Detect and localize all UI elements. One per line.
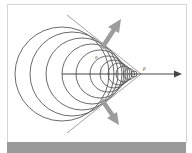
- emission-arrow-upper: [102, 19, 121, 48]
- emission-arrow-lower: [102, 100, 119, 125]
- cherenkov-cone-diagram: θ β: [0, 0, 192, 153]
- caption-bar: [7, 142, 186, 153]
- beta-label: β: [142, 66, 146, 71]
